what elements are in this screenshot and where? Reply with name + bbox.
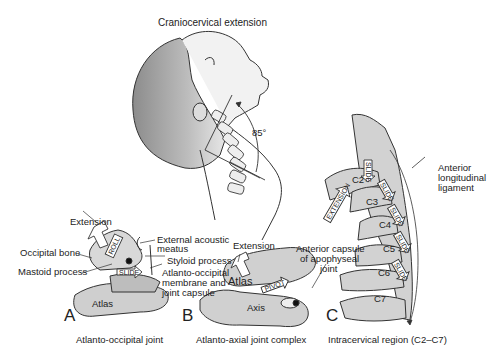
label-c5: C5 xyxy=(383,244,395,254)
svg-text:SLIDE: SLIDE xyxy=(365,162,372,183)
label-atlas-b: Atlas xyxy=(228,276,252,286)
angle-label: 85° xyxy=(252,128,266,138)
label-mastoid-process: Mastoid process xyxy=(18,267,87,277)
label-styloid-process: Styloid process xyxy=(167,256,231,266)
panel-letter-b: B xyxy=(182,306,193,326)
figure-title: Craniocervical extension xyxy=(158,17,267,28)
panel-letter-a: A xyxy=(64,306,75,326)
label-occipital-bone: Occipital bone xyxy=(20,248,80,258)
label-extension-a: Extension xyxy=(70,217,112,227)
label-extension-b: Extension xyxy=(233,241,275,251)
label-atlanto-occipital-3: joint capsule xyxy=(162,288,215,298)
panel-letter-c: C xyxy=(326,306,338,326)
label-atlas-a: Atlas xyxy=(92,299,113,309)
label-all-3: ligament xyxy=(438,183,474,193)
label-c7: C7 xyxy=(374,294,386,304)
svg-text:SLIDE: SLIDE xyxy=(119,269,140,276)
label-c6: C6 xyxy=(378,268,390,278)
label-c4: C4 xyxy=(379,220,391,230)
label-axis: Axis xyxy=(247,303,265,313)
label-c2: C2 xyxy=(352,175,364,185)
caption-b: Atlanto-axial joint complex xyxy=(196,334,306,345)
label-anterior-capsule-3: joint xyxy=(320,264,337,274)
caption-a: Atlanto-occipital joint xyxy=(76,334,163,345)
label-meatus: meatus xyxy=(157,244,188,254)
caption-c: Intracervical region (C2–C7) xyxy=(328,334,447,345)
label-c3: C3 xyxy=(366,197,378,207)
